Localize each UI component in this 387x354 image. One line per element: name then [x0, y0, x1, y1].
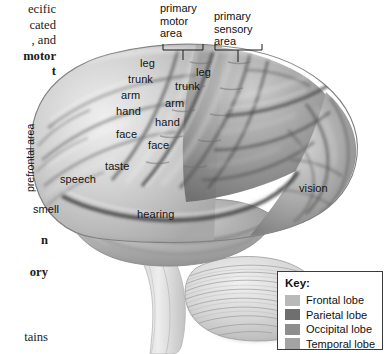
callout-primary-sensory-line-2: sensory [214, 23, 253, 35]
label-hearing: hearing [137, 208, 174, 220]
label-taste: taste [105, 160, 129, 172]
key-label-frontal-lobe: Frontal lobe [306, 294, 364, 306]
label-motor-face: face [116, 128, 137, 140]
label-sensory-face: face [148, 139, 169, 151]
key-swatch-temporal-lobe [285, 338, 300, 349]
callout-primary-motor-line-1: primary [160, 2, 197, 14]
key-swatch-parietal-lobe [285, 309, 300, 320]
figure-page: ecific cated , and motor t n ory tains [0, 0, 387, 354]
label-sensory-hand: hand [155, 116, 180, 128]
callout-primary-sensory-line-1: primary [214, 10, 251, 22]
callout-primary-motor-area: primary motor area [160, 2, 197, 40]
key-legend-box: Key: Frontal lobe Parietal lobe Occipita… [277, 271, 383, 350]
label-motor-trunk: trunk [128, 73, 153, 85]
callout-primary-sensory-area: primary sensory area [214, 10, 253, 48]
cerebrum [30, 44, 357, 246]
callout-primary-sensory-line-3: area [214, 35, 236, 47]
label-motor-arm: arm [121, 89, 140, 101]
key-title: Key: [285, 277, 382, 290]
label-prefrontal-area: prefrontal area [24, 124, 36, 192]
label-speech: speech [60, 173, 96, 185]
label-sensory-leg: leg [196, 66, 211, 78]
key-swatch-frontal-lobe [285, 295, 300, 306]
key-label-parietal-lobe: Parietal lobe [306, 309, 367, 321]
key-row-parietal-lobe: Parietal lobe [285, 308, 382, 323]
label-sensory-trunk: trunk [175, 80, 200, 92]
key-row-frontal-lobe: Frontal lobe [285, 293, 382, 308]
key-label-temporal-lobe: Temporal lobe [306, 338, 375, 350]
callout-primary-motor-line-3: area [160, 27, 182, 39]
label-vision: vision [299, 182, 328, 194]
label-motor-leg: leg [140, 57, 155, 69]
key-swatch-occipital-lobe [285, 324, 300, 335]
label-motor-hand: hand [116, 105, 141, 117]
key-row-occipital-lobe: Occipital lobe [285, 322, 382, 337]
key-row-temporal-lobe: Temporal lobe [285, 337, 382, 352]
key-label-occipital-lobe: Occipital lobe [306, 323, 372, 335]
label-sensory-arm: arm [165, 97, 184, 109]
callout-primary-motor-line-2: motor [160, 15, 188, 27]
label-smell: smell [33, 203, 59, 215]
